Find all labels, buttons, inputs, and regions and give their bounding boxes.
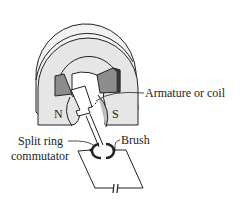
dc-motor-diagram: N S Armature or coil Split ring commutat… [0,0,244,201]
south-pole-label: S [112,107,119,121]
armature-label: Armature or coil [145,86,226,100]
circuit-wire-right [114,150,143,188]
brush-leader [115,140,120,149]
commutator-leader [68,141,95,146]
commutator-label-line1: Split ring [18,134,63,148]
armature-dashed-back [92,101,98,107]
commutator-left-half [92,144,101,158]
north-pole-label: N [54,107,63,121]
battery-plate-1 [113,184,114,193]
brush-label: Brush [121,133,150,147]
battery-plate-2 [117,184,118,193]
commutator-label-line2: commutator [11,149,69,163]
